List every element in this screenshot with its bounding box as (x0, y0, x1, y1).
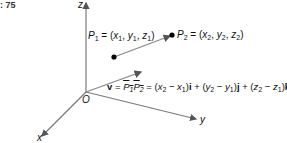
x-axis (42, 92, 86, 136)
point-p2 (169, 32, 174, 37)
p1-label: P1 = (x1, y1, z1) (88, 31, 155, 41)
origin-label: O (82, 95, 90, 105)
x-axis-label: x (37, 133, 42, 143)
y-axis (86, 92, 196, 119)
z-axis-label: z (78, 0, 83, 10)
p2-label: P2 = (x2, y2, z2) (177, 30, 244, 40)
vector-equation: v = P1P2 = (x2 − x1)i + (y2 − y1)j + (z2… (107, 82, 287, 92)
y-axis-label: y (200, 115, 205, 125)
coordinate-diagram (0, 0, 287, 143)
point-p1 (111, 54, 116, 59)
